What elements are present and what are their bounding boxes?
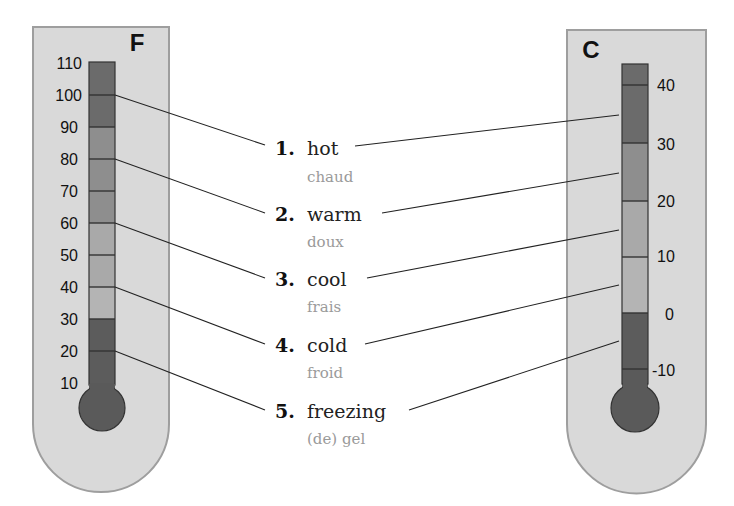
label-english: freezing xyxy=(307,400,386,422)
temperature-diagram: F 110 100 90 80 70 60 50 40 30 20 10 xyxy=(0,0,734,506)
label-english: hot xyxy=(307,137,339,159)
c-tick-20: 20 xyxy=(657,193,675,210)
label-number: 2. xyxy=(275,203,295,225)
label-english: warm xyxy=(307,203,362,225)
label-french: (de) gel xyxy=(307,430,365,448)
f-segment-80-70 xyxy=(89,159,115,191)
celsius-thermometer: C 40 30 20 10 0 -10 xyxy=(567,30,706,494)
label-cold: 4. cold froid xyxy=(275,334,347,382)
c-segment-20-10 xyxy=(622,201,648,257)
f-tick-50: 50 xyxy=(60,247,78,264)
f-tick-80: 80 xyxy=(60,151,78,168)
f-segment-50-40 xyxy=(89,255,115,287)
c-segment-40-30 xyxy=(622,85,648,143)
f-tick-60: 60 xyxy=(60,215,78,232)
c-segment-30-20 xyxy=(622,143,648,201)
label-french: frais xyxy=(307,298,341,316)
label-french: froid xyxy=(307,364,344,382)
f-tick-10: 10 xyxy=(60,375,78,392)
f-tick-30: 30 xyxy=(60,311,78,328)
f-segment-90-80 xyxy=(89,127,115,159)
f-tick-100: 100 xyxy=(55,87,82,104)
label-hot: 1. hot chaud xyxy=(275,137,354,186)
c-tick-40: 40 xyxy=(657,77,675,94)
label-number: 3. xyxy=(275,268,295,290)
label-french: chaud xyxy=(307,168,354,186)
f-tick-20: 20 xyxy=(60,343,78,360)
f-segment-30-20 xyxy=(89,319,115,351)
c-segment-10-0 xyxy=(622,257,648,313)
label-french: doux xyxy=(307,233,344,251)
label-english: cold xyxy=(307,334,347,356)
label-number: 1. xyxy=(275,137,295,159)
f-segment-40-30 xyxy=(89,287,115,319)
f-segment-110-100 xyxy=(89,62,115,95)
fahrenheit-unit-label: F xyxy=(130,29,145,56)
c-tick-30: 30 xyxy=(657,136,675,153)
label-freezing: 5. freezing (de) gel xyxy=(275,400,386,448)
label-number: 5. xyxy=(275,400,295,422)
f-segment-70-60 xyxy=(89,191,115,223)
c-tick-0: 0 xyxy=(665,306,674,323)
f-tick-40: 40 xyxy=(60,279,78,296)
label-english: cool xyxy=(307,268,347,290)
label-cool: 3. cool frais xyxy=(275,268,347,316)
connector-lines xyxy=(115,95,619,410)
fahrenheit-thermometer: F 110 100 90 80 70 60 50 40 30 20 10 xyxy=(33,27,169,492)
f-segment-100-90 xyxy=(89,95,115,127)
c-tick-10: 10 xyxy=(657,248,675,265)
label-number: 4. xyxy=(275,334,295,356)
c-segment-top xyxy=(622,64,648,85)
f-segment-20-10 xyxy=(89,351,115,385)
celsius-unit-label: C xyxy=(582,36,599,63)
c-tick-minus-10: -10 xyxy=(652,362,675,379)
f-tick-110: 110 xyxy=(56,55,82,72)
f-tick-70: 70 xyxy=(60,183,78,200)
c-segment-0-minus10 xyxy=(622,313,648,369)
f-tick-90: 90 xyxy=(60,119,78,136)
label-warm: 2. warm doux xyxy=(275,203,362,251)
f-segment-60-50 xyxy=(89,223,115,255)
